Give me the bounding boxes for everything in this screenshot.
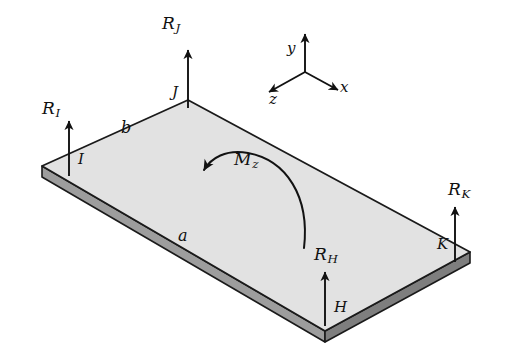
reaction-label-R-K-subscript: K: [461, 187, 471, 201]
axis-label-x: x: [340, 80, 348, 95]
axis-label-z: z: [269, 92, 277, 107]
reaction-label-R-J-base: R: [162, 13, 175, 33]
reaction-label-R-H-base: R: [314, 244, 327, 264]
moment-label-base: M: [234, 149, 251, 169]
point-label-H: H: [334, 300, 347, 315]
reaction-label-R-J-subscript: J: [175, 21, 180, 35]
axis-x-arrow: [305, 72, 338, 90]
moment-label-subscript: z: [251, 157, 258, 171]
axis-z-arrow: [269, 72, 305, 92]
reaction-label-R-H-subscript: H: [327, 252, 338, 266]
point-label-K: K: [437, 237, 448, 252]
axis-label-y: y: [287, 41, 295, 56]
reaction-label-R-H: RH: [314, 246, 338, 266]
dimension-label-b: b: [121, 120, 131, 136]
point-label-J: J: [172, 85, 178, 100]
reaction-label-R-J: RJ: [162, 15, 180, 35]
point-label-I: I: [78, 152, 84, 167]
reaction-label-R-I: RI: [42, 100, 60, 120]
dimension-label-a: a: [178, 228, 188, 244]
reaction-label-R-I-base: R: [42, 98, 55, 118]
reaction-label-R-I-subscript: I: [55, 106, 60, 120]
coordinate-axes-triad: [269, 34, 338, 92]
plate-diagram-svg: [0, 0, 510, 362]
figure-canvas: RI I RJ J RK K RH H Mz b a y x z: [0, 0, 510, 362]
moment-label-mz: Mz: [234, 151, 258, 171]
reaction-label-R-K: RK: [448, 181, 470, 201]
reaction-label-R-K-base: R: [448, 179, 461, 199]
